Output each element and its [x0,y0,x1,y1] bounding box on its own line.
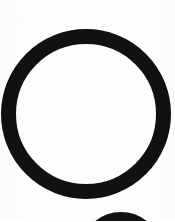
small-circle-top-arc [86,218,157,222]
large-circle-outline-group [9,37,164,192]
large-circle-outline [9,37,164,192]
small-circle-top-arc-group [86,218,157,222]
ink-layer [0,0,175,221]
scanned-page [0,0,175,221]
marks-canvas [0,0,175,221]
